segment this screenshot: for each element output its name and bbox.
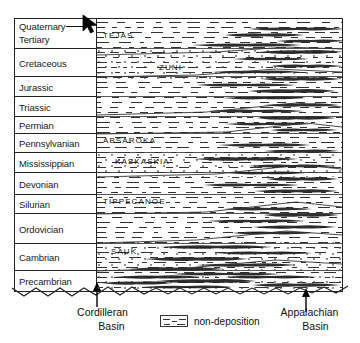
sequence-label-tippecanoe: TIPPECANOE [103,197,166,206]
cordilleran-basin-label: Cordilleran Basin [55,305,150,333]
period-label: Ordovician [19,224,63,235]
period-row: Devonian [15,173,97,195]
period-row: Permian [15,117,97,134]
non-deposition-swatch [160,315,188,327]
sandstone-stipple [97,49,342,79]
period-row: Cretaceous [15,49,97,77]
period-row: Silurian [15,195,97,214]
legend-label: non-deposition [194,316,260,327]
period-label: Cretaceous [19,58,67,69]
period-label: Devonian [19,179,58,190]
sequence-label-zuni: ZUNI [159,63,182,72]
period-row: Mississippian [15,153,97,173]
period-row: Ordovician [15,214,97,244]
period-label: Pennsylvanian [19,138,80,149]
appalachian-basin-label: Appalachian Basin [262,305,357,333]
legend: non-deposition [160,315,260,327]
stratigraphic-panel: TEJASZUNIABSAROKAKASKASKIATIPPECANOESAUK [97,19,342,291]
sequence-label-absaroka: ABSAROKA [103,136,156,145]
stratigraphic-figure: QuaternaryTertiaryCretaceousJurassicTria… [0,0,360,343]
period-label: Cambrian [19,252,59,263]
sandstone-stipple [97,275,342,291]
quaternary-leader-line [66,26,84,27]
period-row: Jurassic [15,77,97,97]
period-label: Quaternary [19,21,66,32]
period-row: Pennsylvanian [15,134,97,153]
period-row: Triassic [15,97,97,117]
period-row: Cambrian [15,244,97,271]
chart-frame: QuaternaryTertiaryCretaceousJurassicTria… [14,18,343,292]
sequence-label-sauk: SAUK [111,247,137,256]
period-label-secondary: Tertiary [19,34,49,45]
period-label: Triassic [19,102,51,113]
cordilleran-basin-sub: Basin [55,319,150,333]
appalachian-basin-sub: Basin [262,319,357,333]
cordilleran-basin-name: Cordilleran [55,305,150,319]
appalachian-basin-name: Appalachian [262,305,357,319]
period-label: Jurassic [19,82,53,93]
period-label: Silurian [19,199,50,210]
period-row: QuaternaryTertiary [15,19,97,49]
sequence-label-tejas: TEJAS [103,31,133,40]
period-label: Mississippian [19,158,74,169]
sequence-label-kaskaskia: KASKASKIA [115,157,170,166]
period-label: Permian [19,120,54,131]
period-column: QuaternaryTertiaryCretaceousJurassicTria… [15,19,97,291]
